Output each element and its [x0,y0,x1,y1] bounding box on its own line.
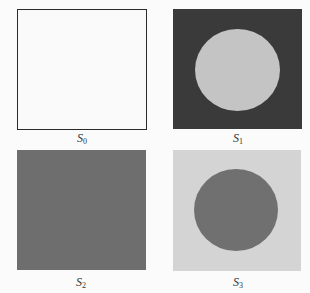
panel-s0 [17,9,147,130]
label-s0-sub: 0 [83,137,87,146]
label-s3-sub: 3 [239,281,243,290]
label-s1-sub: 1 [239,137,243,146]
circle-s1 [195,29,280,111]
label-s2-sub: 2 [82,281,86,290]
panel-s1 [173,9,302,129]
label-s1: S1 [218,132,258,144]
label-s0: S0 [62,132,102,144]
label-s2: S2 [61,276,101,288]
label-s3: S3 [218,276,258,288]
circle-s3 [194,169,278,251]
panel-s2 [17,150,146,270]
panel-s3 [173,150,301,271]
